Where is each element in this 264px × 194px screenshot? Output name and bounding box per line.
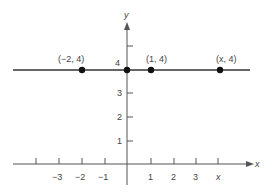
y-tick-label: 4 <box>115 58 120 68</box>
x-tick-label: 2 <box>171 172 176 182</box>
point-0-4 <box>124 67 130 73</box>
y-tick-label: 3 <box>117 88 122 98</box>
y-ticks <box>127 46 133 141</box>
x-tick-label: −1 <box>98 172 108 182</box>
point-label: (−2, 4) <box>58 54 84 64</box>
point-x-4 <box>217 67 223 73</box>
x-axis-arrow-icon <box>246 161 254 167</box>
x-tick-label: x <box>215 172 221 182</box>
y-tick-label: 2 <box>117 112 122 122</box>
x-axis-label: x <box>254 159 260 169</box>
point-label: (x, 4) <box>216 54 237 64</box>
point-neg2-4 <box>79 67 85 73</box>
point-label: (1, 4) <box>146 54 167 64</box>
x-tick-label: −2 <box>75 172 85 182</box>
y-axis-label: y <box>123 10 129 20</box>
y-axis-arrow-icon <box>124 22 130 30</box>
x-tick-label: 3 <box>193 172 198 182</box>
point-1-4 <box>148 67 154 73</box>
x-tick-label: −3 <box>52 172 62 182</box>
chart: x y −3 −2 −1 1 2 3 x 1 2 3 4 (−2, 4) (1,… <box>0 0 264 194</box>
x-tick-label: 1 <box>148 172 153 182</box>
y-tick-label: 1 <box>117 136 122 146</box>
